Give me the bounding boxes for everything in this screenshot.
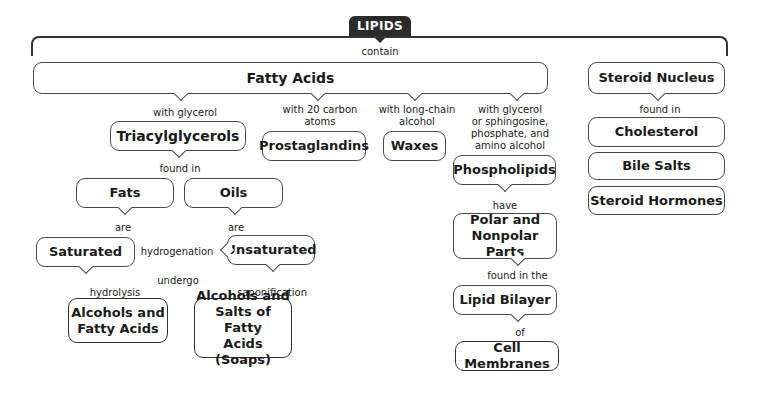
node-steroid-nucleus-text: Steroid Nucleus [598, 70, 714, 86]
label-are-oils: are [221, 222, 251, 234]
node-cholesterol: Cholesterol [588, 117, 725, 147]
label-have: have [480, 200, 530, 212]
label-undergo: undergo [148, 275, 208, 287]
node-bile-salts: Bile Salts [588, 152, 725, 180]
label-found-in-the: found in the [475, 270, 560, 282]
node-waxes: Waxes [383, 131, 446, 161]
node-prostaglandins: Prostaglandins [262, 131, 366, 161]
node-waxes-text: Waxes [391, 138, 439, 154]
node-fats-text: Fats [110, 185, 141, 201]
node-fatty-acids-text: Fatty Acids [247, 70, 335, 86]
node-oils-text: Oils [220, 185, 248, 201]
node-lipid-bilayer-text: Lipid Bilayer [459, 292, 550, 308]
node-alcohols-fatty-acids-text: Alcohols and Fatty Acids [71, 305, 164, 337]
label-contain: contain [355, 46, 405, 58]
node-lipid-bilayer: Lipid Bilayer [453, 285, 557, 315]
node-triacylglycerols-text: Triacylglycerols [117, 128, 240, 144]
node-cholesterol-text: Cholesterol [615, 124, 699, 140]
node-prostaglandins-text: Prostaglandins [259, 138, 369, 154]
label-with-long-chain: with long-chain alcohol [372, 104, 462, 128]
label-of: of [505, 327, 535, 339]
node-steroid-hormones: Steroid Hormones [588, 186, 725, 215]
node-steroid-hormones-text: Steroid Hormones [590, 193, 723, 209]
node-polar-nonpolar-text: Polar and Nonpolar Parts [454, 212, 556, 260]
label-hydrogenation: hydrogenation [138, 246, 216, 258]
node-cell-membranes: Cell Membranes [455, 341, 559, 371]
label-with-20-carbon: with 20 carbon atoms [270, 104, 370, 128]
label-with-glycerol-sphingosine: with glycerol or sphingosine, phosphate,… [465, 104, 555, 152]
node-cell-membranes-text: Cell Membranes [456, 340, 558, 372]
node-alcohols-salts: Alcohols and Salts of Fatty Acids (Soaps… [194, 298, 292, 358]
label-are-fats: are [108, 222, 138, 234]
node-fatty-acids: Fatty Acids [33, 62, 548, 94]
node-phospholipids-text: Phospholipids [453, 162, 556, 178]
label-found-in-tag: found in [150, 163, 210, 175]
node-unsaturated-text: Unsaturated [225, 242, 316, 258]
label-with-glycerol: with glycerol [140, 107, 230, 119]
node-polar-nonpolar: Polar and Nonpolar Parts [453, 213, 557, 259]
node-saturated-text: Saturated [49, 244, 122, 260]
label-found-in-steroid: found in [630, 104, 690, 116]
node-bile-salts-text: Bile Salts [622, 158, 691, 174]
node-alcohols-salts-text: Alcohols and Salts of Fatty Acids (Soaps… [195, 288, 291, 368]
node-alcohols-fatty-acids: Alcohols and Fatty Acids [68, 298, 168, 343]
